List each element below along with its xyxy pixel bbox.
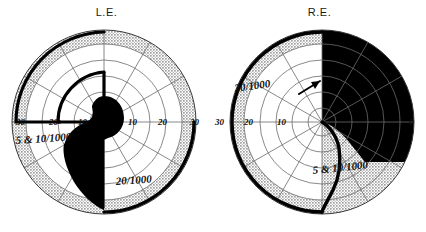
axis-label-right-10: 10 xyxy=(128,117,138,127)
panel-title-right-eye: R.E. xyxy=(213,6,426,18)
visual-field-figure: L.E. xyxy=(0,0,426,232)
axis-label-left-30: 30 xyxy=(214,117,225,127)
axis-label-right-30: 30 xyxy=(189,117,200,127)
axis-label-left-20: 20 xyxy=(243,117,254,127)
axis-label-left-10: 10 xyxy=(277,117,287,127)
chart-panel-left-eye: L.E. xyxy=(0,0,213,232)
scotoma-quadrant-upper-right xyxy=(322,30,414,122)
axis-label-left-10: 10 xyxy=(78,117,88,127)
perimetry-plot-right-eye: 30 20 10 0 20/1000 5 & 10/1000 xyxy=(213,22,426,232)
axis-label-right-0: 0 xyxy=(409,117,414,127)
panel-title-left-eye: L.E. xyxy=(0,6,213,18)
axis-label-left-20: 20 xyxy=(48,117,59,127)
perimetry-plot-left-eye: 30 20 10 10 20 30 5 & 10/1000 20/1000 xyxy=(0,22,213,232)
axis-label-right-20: 20 xyxy=(157,117,168,127)
axis-label-left-30: 30 xyxy=(15,117,26,127)
chart-panel-right-eye: R.E. xyxy=(213,0,426,232)
